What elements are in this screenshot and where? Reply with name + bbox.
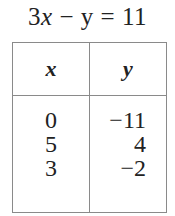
x-value: 5 <box>13 132 89 156</box>
table-header-row: x y <box>13 43 167 96</box>
header-x: x <box>13 43 90 96</box>
header-y: y <box>90 43 167 96</box>
equation-rhs: 11 <box>122 3 147 30</box>
table-body-row: 0 5 3 −11 4 −2 <box>13 96 167 213</box>
xy-table: x y 0 5 3 −11 4 −2 <box>12 42 167 213</box>
equation-var-x: x <box>41 3 53 30</box>
equation-coefficient: 3 <box>28 3 41 30</box>
y-values-cell: −11 4 −2 <box>90 96 167 213</box>
x-value: 3 <box>13 156 89 180</box>
y-value: −11 <box>90 108 166 132</box>
equation-minus: − <box>53 3 81 30</box>
equation-var-y: y <box>81 3 94 30</box>
equation: 3x − y = 11 <box>0 2 175 32</box>
y-value: −2 <box>90 156 166 180</box>
x-value: 0 <box>13 108 89 132</box>
x-values-cell: 0 5 3 <box>13 96 90 213</box>
equation-equals: = <box>94 3 122 30</box>
y-value: 4 <box>90 132 166 156</box>
